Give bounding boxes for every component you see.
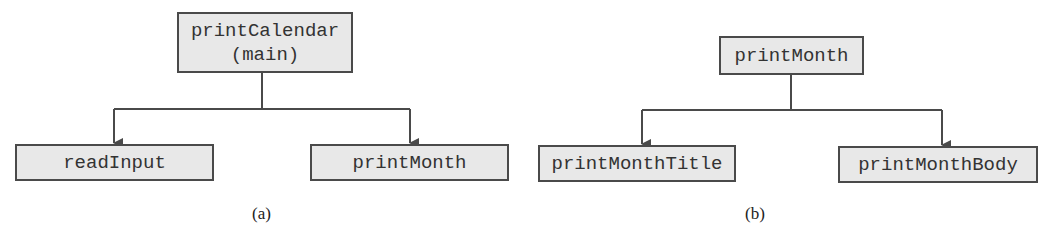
node-label: printMonth <box>734 44 848 68</box>
caption-b: (b) <box>745 204 765 224</box>
node-label: readInput <box>63 151 166 175</box>
panel-a-edges <box>114 72 410 143</box>
node-printmonthbody: printMonthBody <box>838 146 1038 183</box>
node-printmonth-b-root: printMonth <box>719 36 864 75</box>
node-label: printMonthTitle <box>551 152 722 176</box>
caption-a: (a) <box>252 204 271 224</box>
node-label: printMonthBody <box>858 153 1018 177</box>
node-printmonthtitle: printMonthTitle <box>538 145 736 182</box>
node-label-line1: printCalendar <box>191 19 339 43</box>
node-label: printMonth <box>352 151 466 175</box>
node-printcalendar-main: printCalendar (main) <box>177 12 353 73</box>
panel-b-edges <box>642 74 942 145</box>
node-printmonth-a: printMonth <box>310 144 509 181</box>
connector-lines <box>0 0 1055 236</box>
node-readinput: readInput <box>15 144 214 181</box>
node-label-line2: (main) <box>231 43 299 67</box>
